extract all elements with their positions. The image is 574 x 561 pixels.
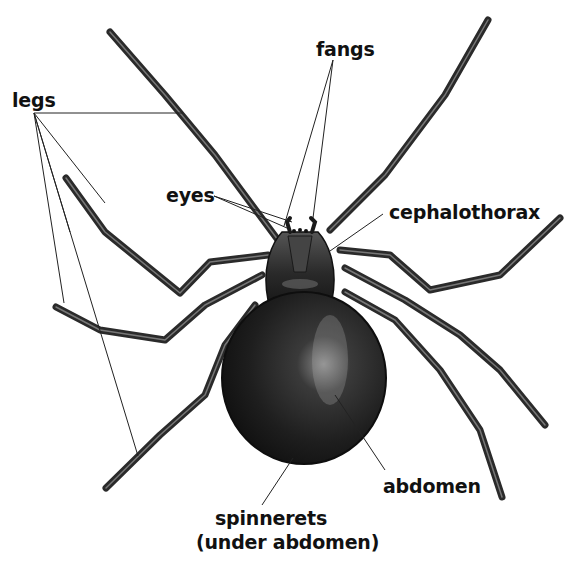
- label-spinnerets-line2: (under abdomen): [196, 530, 346, 554]
- leader-line-eyes: [214, 196, 292, 222]
- label-spinnerets-line1: spinnerets: [196, 506, 346, 530]
- leg-left-3: [56, 275, 262, 340]
- leader-line-fangs: [284, 60, 333, 226]
- leader-line-spinnerets: [262, 458, 293, 505]
- leader-line-legs: [34, 113, 105, 203]
- label-cephalothorax: cephalothorax: [389, 203, 540, 222]
- leader-line-fangs: [313, 60, 333, 218]
- label-fangs: fangs: [316, 40, 375, 59]
- leader-line-legs: [34, 113, 64, 303]
- leader-line-legs: [34, 113, 138, 456]
- label-legs: legs: [12, 91, 56, 110]
- label-spinnerets: spinnerets (under abdomen): [196, 506, 346, 554]
- cephalothorax-shape: [266, 232, 334, 300]
- label-eyes: eyes: [166, 186, 215, 205]
- abdomen-shape: [222, 292, 386, 464]
- label-abdomen: abdomen: [383, 477, 481, 496]
- spider-diagram: legs fangs eyes cephalothorax abdomen sp…: [0, 0, 574, 561]
